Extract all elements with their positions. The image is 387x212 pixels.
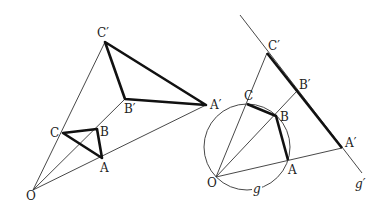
geometry-diagram: O C B A C′ B′ A′ O C B A C′ B′ A′ g g′ (0, 0, 387, 212)
label-O-left: O (26, 189, 36, 203)
label-g: g (253, 182, 261, 196)
right-figure: O C B A C′ B′ A′ g g′ (204, 15, 366, 196)
label-B-right: B (280, 110, 289, 124)
ray-OC-prime (33, 42, 105, 190)
label-C-prime-right: C′ (268, 39, 280, 53)
label-C-left: C (50, 126, 59, 140)
label-B-left: B (100, 125, 109, 139)
label-g-prime: g′ (355, 177, 366, 191)
ray-OB-prime-right (216, 91, 297, 177)
label-C-right: C (244, 89, 253, 103)
ray-OA-prime-right (216, 148, 342, 177)
ray-OA-prime (33, 105, 206, 190)
left-figure: O C B A C′ B′ A′ (26, 26, 222, 203)
label-A-left: A (99, 161, 109, 175)
label-C-prime-left: C′ (97, 26, 109, 40)
label-A-right: A (287, 163, 297, 177)
label-B-prime-right: B′ (299, 78, 311, 92)
triangle-ABC (63, 129, 102, 158)
label-A-prime-right: A′ (344, 136, 357, 150)
ray-OC-prime-right (216, 53, 267, 177)
triangle-A-prime-B-prime-C-prime (105, 42, 206, 105)
segment-C-prime-A-prime (267, 53, 342, 148)
label-A-prime-left: A′ (209, 98, 222, 112)
label-B-prime-left: B′ (124, 102, 136, 116)
label-O-right: O (207, 176, 217, 190)
